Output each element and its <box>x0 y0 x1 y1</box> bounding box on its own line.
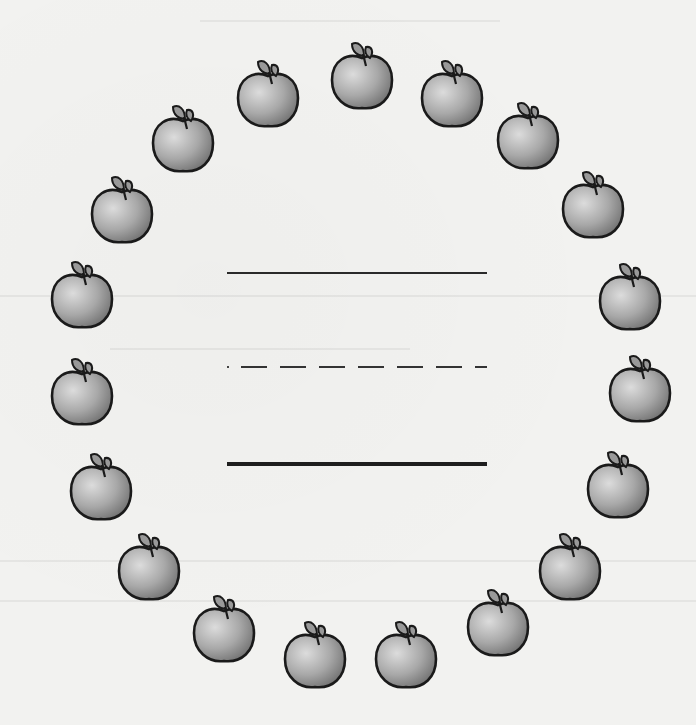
apple-icon <box>596 259 664 333</box>
writing-line-baseline <box>227 462 487 466</box>
apple-icon <box>494 98 562 172</box>
apple-icon <box>372 617 440 691</box>
apple-icon <box>149 101 217 175</box>
apple-icon <box>88 172 156 246</box>
writing-line-top <box>227 272 487 274</box>
apple-icon <box>190 591 258 665</box>
apple-icon <box>48 354 116 428</box>
apple-icon <box>67 449 135 523</box>
apple-icon <box>536 529 604 603</box>
apple-icon <box>584 447 652 521</box>
bleed-through-mark <box>200 20 500 22</box>
apple-icon <box>559 167 627 241</box>
apple-icon <box>281 617 349 691</box>
apple-icon <box>115 529 183 603</box>
writing-line-dashed-midline <box>241 366 487 368</box>
apple-icon <box>48 257 116 331</box>
midline-start-dot <box>227 366 229 368</box>
apple-icon <box>418 56 486 130</box>
apple-icon <box>606 351 674 425</box>
worksheet-page <box>0 0 696 725</box>
apple-icon <box>234 56 302 130</box>
bleed-through-mark <box>110 348 410 350</box>
apple-icon <box>464 585 532 659</box>
apple-icon <box>328 38 396 112</box>
